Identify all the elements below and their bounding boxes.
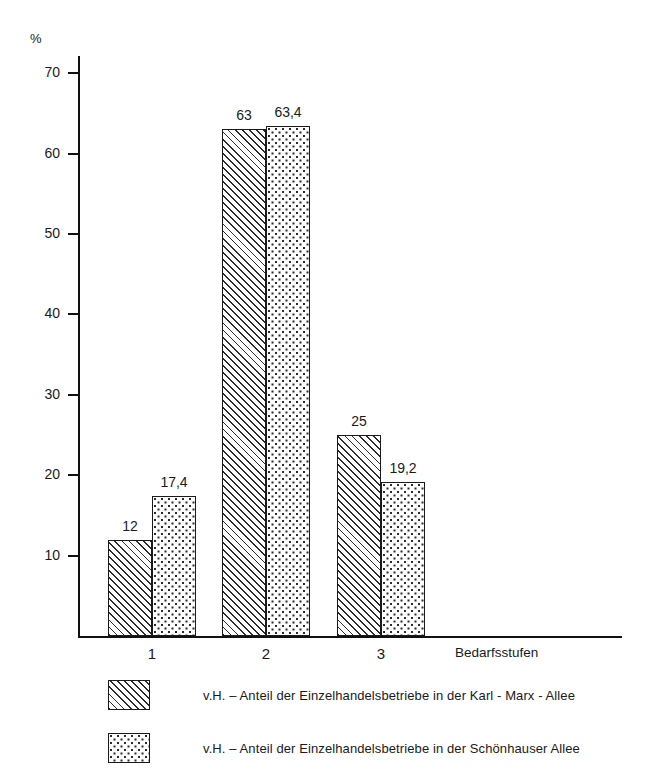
- x-category-label-2: 2: [226, 645, 306, 662]
- bar-value-label-3-series-2: 19,2: [369, 460, 437, 476]
- y-tick-label-70: 70: [0, 64, 60, 80]
- y-tick-label-50: 50: [0, 225, 60, 241]
- x-category-label-3: 3: [341, 645, 421, 662]
- bar-group-2-series-2: [266, 126, 310, 636]
- bar-value-label-3-series-1: 25: [325, 413, 393, 429]
- bar-value-label-2-series-2: 63,4: [254, 104, 322, 120]
- chart-legend: v.H. – Anteil der Einzelhandelsbetriebe …: [0, 668, 645, 781]
- x-category-label-1: 1: [112, 645, 192, 662]
- y-tick-label-40: 40: [0, 305, 60, 321]
- y-tick-label-20: 20: [0, 466, 60, 482]
- x-axis-title: Bedarfsstufen: [455, 645, 538, 660]
- dotted-swatch-icon: [108, 733, 150, 763]
- x-axis-line: [78, 636, 622, 638]
- y-tick-70: [68, 72, 78, 74]
- legend-item-karl-marx-allee: v.H. – Anteil der Einzelhandelsbetriebe …: [108, 680, 575, 710]
- y-tick-label-60: 60: [0, 145, 60, 161]
- legend-label-schoenhauser-allee: v.H. – Anteil der Einzelhandelsbetriebe …: [203, 741, 580, 756]
- bar-value-label-1-series-2: 17,4: [140, 474, 208, 490]
- bar-group-1-series-1: [108, 540, 152, 636]
- bar-chart: % 10203040506070 1217,46363,42519,2 123 …: [0, 0, 645, 781]
- bar-group-2-series-1: [222, 129, 266, 636]
- y-tick-10: [68, 555, 78, 557]
- plot-area: % 10203040506070 1217,46363,42519,2 123 …: [0, 0, 645, 670]
- y-tick-20: [68, 474, 78, 476]
- y-axis-unit-label: %: [30, 31, 42, 46]
- legend-item-schoenhauser-allee: v.H. – Anteil der Einzelhandelsbetriebe …: [108, 733, 580, 763]
- y-tick-30: [68, 394, 78, 396]
- y-tick-60: [68, 153, 78, 155]
- y-tick-label-30: 30: [0, 386, 60, 402]
- legend-label-karl-marx-allee: v.H. – Anteil der Einzelhandelsbetriebe …: [203, 688, 575, 703]
- y-axis-line: [78, 56, 80, 638]
- bar-group-3-series-2: [381, 482, 425, 636]
- y-tick-40: [68, 313, 78, 315]
- diagonal-hatch-swatch-icon: [108, 680, 150, 710]
- bar-group-1-series-2: [152, 496, 196, 636]
- y-tick-50: [68, 233, 78, 235]
- y-tick-label-10: 10: [0, 547, 60, 563]
